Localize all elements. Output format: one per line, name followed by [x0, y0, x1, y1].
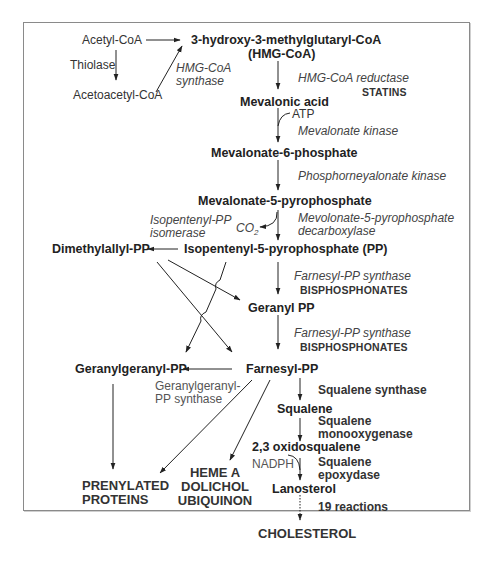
enzyme-fpp-synthase-1: Farnesyl-PP synthase	[294, 269, 411, 283]
co2-curve	[260, 212, 277, 227]
enzyme-hmg-coa-synthase-2: synthase	[176, 74, 224, 88]
metabolite-hmg-coa: 3-hydroxy-3-methylglutaryl-CoA	[191, 33, 381, 47]
arrow-dmapp-to-fpp	[157, 262, 232, 352]
enzyme-mevalonate-kinase: Mevalonate kinase	[298, 124, 398, 138]
metabolite-oxidosqualene: 2,3 oxidosqualene	[252, 440, 360, 454]
cofactor-nadph: NADPH	[252, 457, 294, 471]
enzyme-hmg-coa-reductase: HMG-CoA reductase	[298, 71, 409, 85]
enzyme-isomerase-2: isomerase	[150, 226, 205, 240]
arrow-dmapp-to-gpp	[168, 260, 240, 300]
enzyme-decarboxylase-2: decarboxylase	[298, 224, 375, 238]
metabolite-farnesyl-pp: Farnesyl-PP	[246, 362, 318, 376]
atp-curve	[278, 113, 290, 126]
enzyme-squalene-monooxygenase-2: monooxygenase	[318, 427, 413, 441]
enzyme-decarboxylase-1: Mevolonate-5-pyrophosphate	[298, 211, 454, 225]
metabolite-lanosterol: Lanosterol	[272, 482, 336, 496]
enzyme-squalene-epoxydase-1: Squalene	[318, 455, 371, 469]
metabolite-mevalonic-acid: Mevalonic acid	[240, 95, 329, 109]
metabolite-mevalonate-6-phosphate: Mevalonate-6-phosphate	[211, 146, 358, 160]
metabolite-isopentenyl-pp: Isopentenyl-5-pyrophosphate (PP)	[184, 242, 388, 256]
enzyme-hmg-coa-synthase-1: HMG-CoA	[176, 61, 231, 75]
cofactor-atp: ATP	[292, 107, 314, 121]
metabolite-geranylgeranyl-pp: Geranylgeranyl-PP	[75, 362, 187, 376]
enzyme-isomerase-1: Isopentenyl-PP	[150, 213, 231, 227]
inhibitor-bisphosphonates-2: BISPHOSPHONATES	[300, 340, 408, 354]
enzyme-squalene-synthase: Squalene synthase	[318, 383, 427, 397]
inhibitor-bisphosphonates-1: BISPHOSPHONATES	[300, 283, 408, 297]
metabolite-geranyl-pp: Geranyl PP	[248, 301, 315, 315]
metabolite-acetyl-coa: Acetyl-CoA	[82, 33, 142, 47]
enzyme-squalene-monooxygenase-1: Squalene	[318, 414, 371, 428]
metabolite-cholesterol: CHOLESTEROL	[258, 526, 356, 542]
product-ubiquinon: UBIQUINON	[172, 493, 258, 509]
metabolite-acetoacetyl-coa: Acetoacetyl-CoA	[73, 88, 162, 102]
arrow-ipp-to-ggpp	[186, 262, 226, 352]
metabolite-dimethylallyl-pp: Dimethylallyl-PP	[52, 242, 150, 256]
enzyme-ggpp-synthase-1: Geranylgeranyl-	[155, 379, 240, 393]
enzyme-ggpp-synthase-2: PP synthase	[155, 392, 222, 406]
metabolite-hmg-coa-abbr: (HMG-CoA)	[248, 47, 315, 61]
cofactor-co2: CO2	[236, 221, 258, 240]
enzyme-fpp-synthase-2: Farnesyl-PP synthase	[294, 326, 411, 340]
enzyme-phosphomevalonate-kinase: Phosphorneyalonate kinase	[298, 169, 446, 183]
annotation-19-reactions: 19 reactions	[318, 500, 388, 514]
product-prenylated-proteins-2: PROTEINS	[82, 492, 148, 508]
enzyme-thiolase: Thiolase	[70, 58, 115, 72]
enzyme-squalene-epoxydase-2: epoxydase	[318, 468, 380, 482]
metabolite-mevalonate-5-pyrophosphate: Mevalonate-5-pyrophosphate	[198, 194, 372, 208]
inhibitor-statins: STATINS	[362, 85, 407, 99]
